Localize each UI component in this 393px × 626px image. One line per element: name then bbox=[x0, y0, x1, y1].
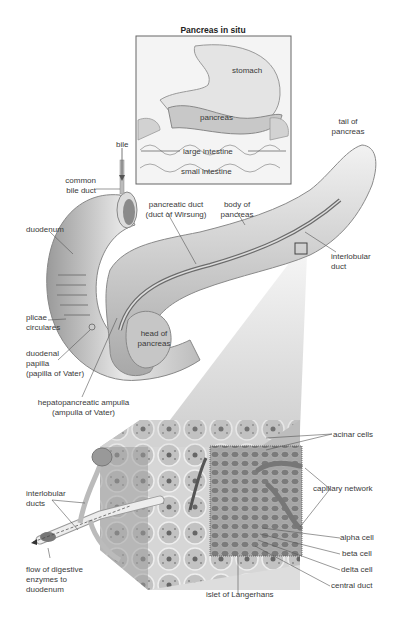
label-body-of-pancreas: body of pancreas bbox=[214, 200, 260, 220]
label-acinar-cells: acinar cells bbox=[333, 430, 373, 440]
label-line: pancreas bbox=[214, 210, 260, 220]
label-duodenum: duodenum bbox=[26, 225, 64, 235]
label-tail-of-pancreas: tail of pancreas bbox=[325, 117, 371, 137]
inset-title: Pancreas in situ bbox=[148, 25, 278, 35]
label-line: ducts bbox=[26, 499, 66, 509]
label-line: pancreas bbox=[134, 339, 174, 349]
label-line: common bbox=[58, 176, 96, 186]
label-line: bile duct bbox=[58, 186, 96, 196]
label-head-of-pancreas: head of pancreas bbox=[134, 329, 174, 349]
label-plicae-circulares: plicae circulares bbox=[26, 313, 60, 333]
label-line: head of bbox=[134, 329, 174, 339]
label-islet-of-langerhans: islet of Langerhans bbox=[206, 590, 274, 600]
label-central-duct: central duct bbox=[331, 581, 372, 591]
label-flow-of-digestive-enzymes: flow of digestive enzymes to duodenum bbox=[26, 565, 83, 595]
label-line: interlobular bbox=[26, 489, 66, 499]
label-line: plicae bbox=[26, 313, 60, 323]
label-hepatopancreatic-ampulla: hepatopancreatic ampulla (ampulla of Vat… bbox=[26, 398, 141, 418]
label-line: duct bbox=[331, 262, 371, 272]
label-line: interlobular bbox=[331, 252, 371, 262]
label-large-intestine: large intestine bbox=[183, 147, 233, 157]
label-beta-cell: beta cell bbox=[342, 549, 372, 559]
label-line: pancreas bbox=[325, 127, 371, 137]
label-interlobular-ducts: interlobular ducts bbox=[26, 489, 66, 509]
label-line: papilla bbox=[26, 359, 84, 369]
label-small-intestine: small intestine bbox=[181, 167, 232, 177]
label-capillary-network: capillary network bbox=[313, 484, 373, 494]
label-line: body of bbox=[214, 200, 260, 210]
label-pancreatic-duct: pancreatic duct (duct of Wirsung) bbox=[138, 200, 214, 220]
label-line: pancreatic duct bbox=[138, 200, 214, 210]
label-stomach: stomach bbox=[232, 66, 262, 76]
inset-pancreas-in-situ bbox=[136, 36, 291, 184]
label-line: enzymes to bbox=[26, 575, 83, 585]
label-line: tail of bbox=[325, 117, 371, 127]
label-line: hepatopancreatic ampulla bbox=[26, 398, 141, 408]
label-line: circulares bbox=[26, 323, 60, 333]
label-line: (papilla of Vater) bbox=[26, 369, 84, 379]
label-alpha-cell: alpha cell bbox=[340, 533, 374, 543]
label-line: flow of digestive bbox=[26, 565, 83, 575]
label-common-bile-duct: common bile duct bbox=[58, 176, 96, 196]
label-line: (duct of Wirsung) bbox=[138, 210, 214, 220]
label-interlobular-duct: interlobular duct bbox=[331, 252, 371, 272]
label-line: duodenal bbox=[26, 349, 84, 359]
label-pancreas-inset: pancreas bbox=[200, 113, 233, 123]
label-line: duodenum bbox=[26, 585, 83, 595]
label-bile: bile bbox=[116, 140, 128, 150]
label-line: (ampulla of Vater) bbox=[26, 408, 141, 418]
label-duodenal-papilla: duodenal papilla (papilla of Vater) bbox=[26, 349, 84, 379]
label-delta-cell: delta cell bbox=[341, 565, 373, 575]
